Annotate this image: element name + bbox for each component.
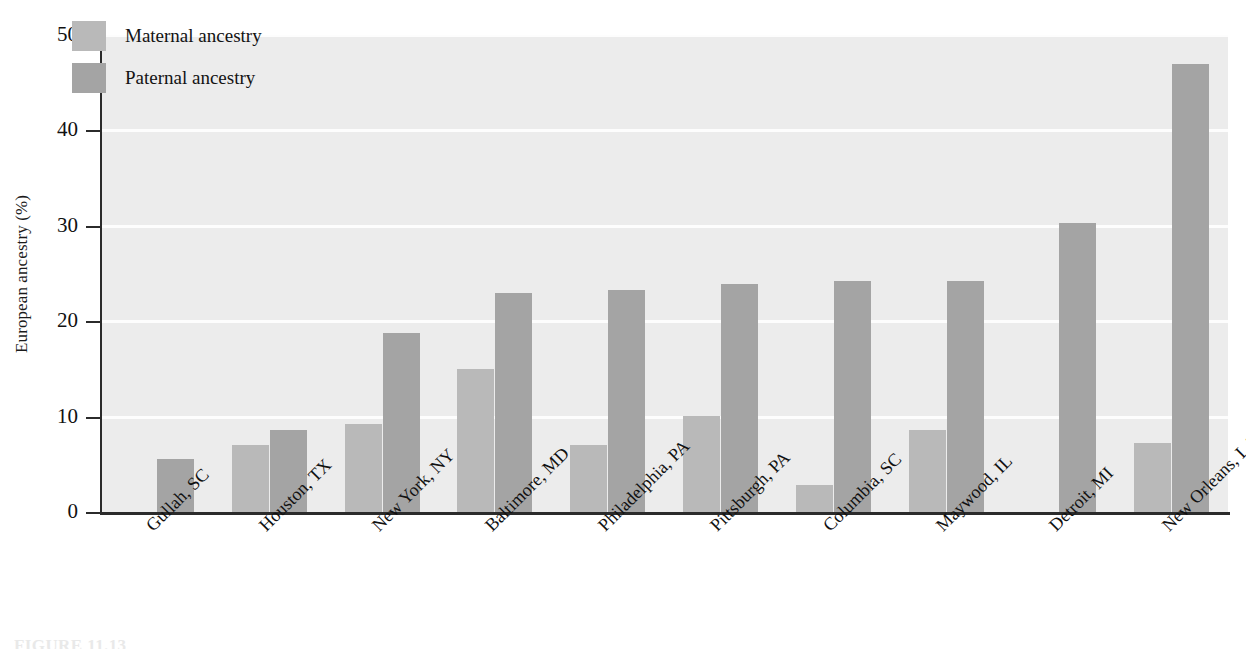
bar-maternal (345, 424, 382, 512)
y-axis-tick: 30 (0, 226, 100, 227)
legend-label: Paternal ancestry (125, 67, 255, 89)
y-axis-tick: 0 (0, 512, 100, 513)
bar-paternal (1172, 64, 1209, 512)
bar-maternal (683, 416, 720, 512)
bar-maternal (570, 445, 607, 512)
figure-caption: FIGURE 11.13 (14, 636, 126, 649)
y-axis-tick-mark (86, 226, 100, 228)
y-axis-tick: 10 (0, 417, 100, 418)
y-axis-tick-mark (86, 512, 100, 514)
chart-legend: Maternal ancestryPaternal ancestry (72, 15, 262, 99)
legend-swatch-icon (72, 63, 106, 93)
y-axis-tick-mark (86, 417, 100, 419)
figure-container: European ancestry (%) 01020304050 Matern… (0, 0, 1246, 649)
bar-maternal (232, 445, 269, 512)
y-axis-tick-label: 40 (57, 117, 78, 141)
y-axis-tick-label: 30 (57, 213, 78, 237)
plot-area (100, 35, 1228, 512)
legend-item: Maternal ancestry (72, 15, 262, 57)
legend-item: Paternal ancestry (72, 57, 262, 99)
bar-maternal (796, 485, 833, 512)
gridline (100, 129, 1228, 132)
y-axis-tick-label: 0 (68, 499, 79, 523)
y-axis-tick: 20 (0, 321, 100, 322)
bar-paternal (1059, 223, 1096, 512)
legend-swatch-icon (72, 21, 106, 51)
bar-maternal (1134, 443, 1171, 512)
y-axis-tick-mark (86, 130, 100, 132)
bar-maternal (457, 369, 494, 512)
legend-label: Maternal ancestry (125, 25, 262, 47)
y-axis-tick-label: 10 (57, 404, 78, 428)
gridline (100, 35, 1228, 37)
y-axis-title: European ancestry (%) (12, 64, 32, 484)
y-axis-tick-label: 20 (57, 308, 78, 332)
y-axis-tick-mark (86, 321, 100, 323)
bar-maternal (909, 430, 946, 512)
y-axis-tick: 40 (0, 130, 100, 131)
y-axis-line (100, 33, 102, 514)
